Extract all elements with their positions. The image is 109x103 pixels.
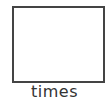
box-label: times xyxy=(0,82,109,102)
empty-box[interactable] xyxy=(12,6,105,83)
